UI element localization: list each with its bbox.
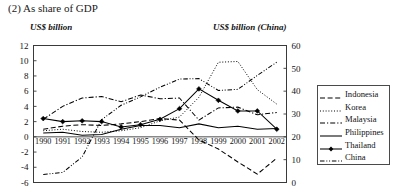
- x-tick-label: 2002: [269, 137, 285, 146]
- series-line-philippines: [43, 124, 277, 135]
- legend-item-label: Thailand: [345, 140, 376, 150]
- legend-item-label: Indonesia: [345, 89, 378, 99]
- legend-line-sample-icon: [320, 89, 342, 99]
- right-tick-label: 10: [292, 155, 302, 165]
- x-tick-label: 1990: [35, 137, 51, 146]
- legend-item-korea[interactable]: Korea: [318, 101, 389, 114]
- x-tick-label: 2000: [230, 137, 246, 146]
- x-tick-label: 1992: [74, 137, 90, 146]
- legend-item-philippines[interactable]: Philippines: [318, 126, 389, 139]
- legend-item-label: Philippines: [345, 127, 384, 137]
- left-tick-label: -4: [21, 162, 29, 172]
- series-marker-thailand: [216, 98, 221, 103]
- x-tick-label: 1997: [171, 137, 187, 146]
- chart-legend: IndonesiaKoreaMalaysiaPhilippinesThailan…: [317, 85, 390, 165]
- series-line-thailand: [43, 89, 277, 129]
- legend-line-sample-icon: [320, 152, 342, 162]
- series-marker-thailand: [138, 122, 143, 127]
- right-tick-label: 20: [292, 132, 302, 142]
- legend-line-sample-icon: [320, 127, 342, 137]
- series-marker-thailand: [41, 116, 46, 121]
- right-tick-label: 30: [292, 109, 302, 119]
- x-tick-label: 1991: [55, 137, 71, 146]
- legend-item-china[interactable]: China: [318, 151, 389, 164]
- series-marker-thailand: [80, 118, 85, 123]
- x-tick-label: 1999: [210, 137, 226, 146]
- left-tick-label: 0: [24, 132, 29, 142]
- legend-item-label: Korea: [345, 102, 366, 112]
- right-tick-label: 0: [292, 178, 297, 188]
- right-tick-label: 40: [292, 86, 302, 96]
- left-tick-label: 4: [24, 102, 29, 112]
- left-tick-label: 10: [20, 56, 30, 66]
- left-tick-label: 8: [24, 71, 29, 81]
- x-tick-label: 1994: [113, 137, 129, 146]
- chart-figure: (2) As share of GDP US$ billion US$ bill…: [0, 0, 400, 195]
- x-tick-label: 1998: [191, 137, 207, 146]
- legend-item-malaysia[interactable]: Malaysia: [318, 113, 389, 126]
- series-line-malaysia: [43, 95, 277, 120]
- x-tick-label: 1996: [152, 137, 168, 146]
- data-series: [41, 61, 279, 174]
- left-tick-label: -6: [21, 178, 29, 188]
- right-tick-label: 60: [292, 41, 302, 51]
- axes: [34, 46, 287, 183]
- series-marker-thailand: [60, 119, 65, 124]
- left-tick-label: -2: [21, 147, 29, 157]
- right-tick-label: 50: [292, 64, 302, 74]
- x-tick-label: 1995: [132, 137, 148, 146]
- legend-item-indonesia[interactable]: Indonesia: [318, 88, 389, 101]
- left-tick-label: 2: [24, 117, 29, 127]
- legend-item-thailand[interactable]: Thailand: [318, 138, 389, 151]
- left-tick-label: 6: [24, 86, 29, 96]
- legend-line-sample-icon: [320, 114, 342, 124]
- legend-item-label: Malaysia: [345, 114, 377, 124]
- legend-item-label: China: [345, 152, 366, 162]
- left-tick-label: 12: [20, 41, 29, 51]
- x-tick-label: 2001: [249, 137, 265, 146]
- x-tick-label: 1993: [93, 137, 109, 146]
- series-marker-thailand: [235, 109, 240, 114]
- plot-frame: [34, 46, 287, 183]
- legend-line-sample-icon: [320, 102, 342, 112]
- legend-line-sample-icon: [320, 140, 342, 150]
- series-marker-thailand: [158, 117, 163, 122]
